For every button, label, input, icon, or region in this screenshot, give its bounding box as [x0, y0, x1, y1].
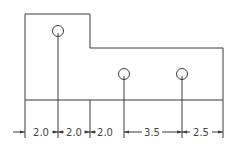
part-drawing: 2.0 2.0 2.0 3.5 2.5 — [0, 0, 234, 145]
dimension-label: 2.0 — [33, 127, 49, 138]
dimension-label: 3.5 — [144, 127, 160, 138]
dimension-label: 2.5 — [193, 127, 209, 138]
dimension-label: 2.0 — [97, 127, 113, 138]
dimension-label: 2.0 — [66, 127, 82, 138]
